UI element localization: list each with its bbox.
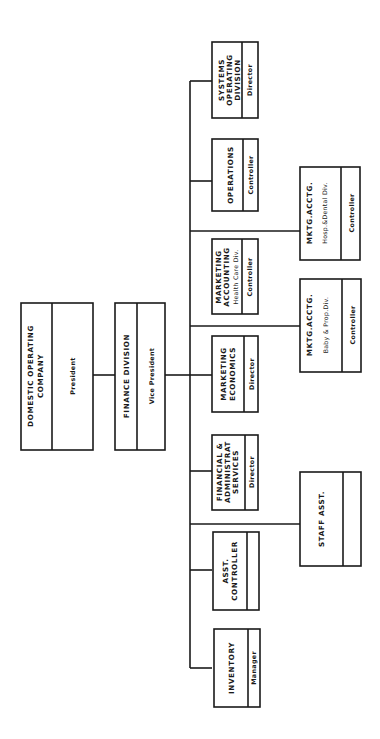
node-role: Director bbox=[248, 358, 256, 390]
node-financial-administrative-services[interactable]: FINANCIAL & ADMINISTRAT SERVICES Directo… bbox=[212, 435, 258, 510]
node-marketing-economics[interactable]: MARKETING ECONOMICS Director bbox=[212, 336, 258, 412]
node-finance-division[interactable]: FINANCE DIVISION Vice President bbox=[115, 303, 165, 450]
node-title: OPERATIONS bbox=[226, 146, 235, 204]
node-title: CONTROLLER bbox=[230, 541, 239, 601]
node-role: Controller bbox=[349, 305, 357, 345]
node-title: COMPANY bbox=[36, 354, 45, 398]
node-subtitle: Health Care Div. bbox=[232, 249, 239, 304]
node-marketing-accounting-health-care[interactable]: MARKETING ACCOUNTING Health Care Div. Co… bbox=[212, 239, 258, 314]
node-title: MARKETING bbox=[219, 347, 228, 401]
node-operations[interactable]: OPERATIONS Controller bbox=[212, 139, 258, 211]
node-mktg-acctg-baby-prop[interactable]: MKTG.ACCTG. Baby & Prop.Div. Controller bbox=[300, 279, 361, 372]
node-title: SERVICES bbox=[231, 450, 240, 494]
node-mktg-acctg-hosp-dental[interactable]: MKTG.ACCTG. Hosp.&Dental Div. Controller bbox=[300, 167, 360, 260]
node-title: ACCOUNTING bbox=[222, 247, 231, 307]
node-title: ASST. bbox=[221, 558, 230, 583]
node-role: Manager bbox=[250, 651, 258, 685]
node-staff-assistant[interactable]: STAFF ASST. bbox=[300, 472, 361, 566]
node-title: MKTG.ACCTG. bbox=[305, 294, 314, 357]
node-domestic-operating-company[interactable]: DOMESTIC OPERATING COMPANY President bbox=[21, 303, 93, 450]
node-role: Controller bbox=[247, 155, 255, 195]
node-systems-operating-division[interactable]: SYSTEMS OPERATING DIVISION Director bbox=[212, 42, 258, 118]
node-role: Director bbox=[246, 64, 254, 96]
node-title: FINANCE DIVISION bbox=[122, 334, 131, 418]
node-title: DIVISION bbox=[233, 59, 242, 101]
node-role: Controller bbox=[348, 193, 356, 233]
node-title: INVENTORY bbox=[227, 642, 236, 694]
node-subtitle: Hosp.&Dental Div. bbox=[321, 182, 329, 244]
org-chart: DOMESTIC OPERATING COMPANY President FIN… bbox=[0, 0, 380, 739]
node-title: ECONOMICS bbox=[228, 347, 237, 401]
node-title: DOMESTIC OPERATING bbox=[26, 325, 35, 427]
node-assistant-controller[interactable]: ASST. CONTROLLER bbox=[213, 532, 259, 610]
node-subtitle: Baby & Prop.Div. bbox=[322, 297, 330, 354]
node-title: STAFF ASST. bbox=[317, 491, 326, 547]
node-role: Controller bbox=[246, 257, 254, 297]
node-role: President bbox=[69, 357, 77, 394]
node-inventory[interactable]: INVENTORY Manager bbox=[214, 629, 260, 707]
node-role: Director bbox=[248, 456, 256, 488]
node-title: MKTG.ACCTG. bbox=[305, 182, 314, 245]
node-role: Vice President bbox=[148, 348, 156, 404]
